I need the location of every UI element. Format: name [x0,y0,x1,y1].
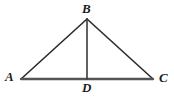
geometry-figure: B A C D [0,0,174,98]
segment-bc [87,19,153,79]
vertex-label-c: C [159,71,168,84]
vertex-label-b: B [82,2,91,15]
segment-ab [21,19,87,79]
vertex-label-d: D [82,81,91,94]
vertex-label-a: A [5,70,14,83]
